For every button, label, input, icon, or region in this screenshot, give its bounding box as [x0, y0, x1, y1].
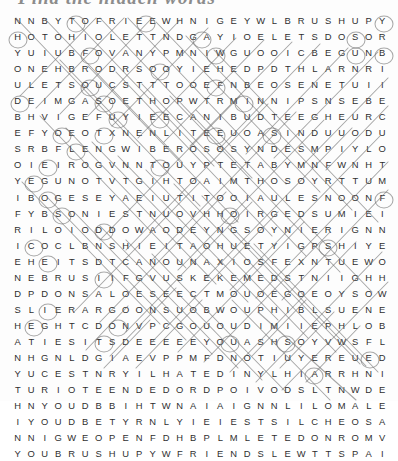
grid-letter[interactable]: T — [322, 382, 336, 398]
grid-letter[interactable]: E — [200, 414, 214, 430]
grid-letter[interactable]: O — [241, 29, 255, 45]
grid-letter[interactable]: N — [349, 157, 363, 173]
grid-letter[interactable]: M — [214, 286, 228, 302]
grid-letter[interactable]: O — [52, 286, 66, 302]
grid-letter[interactable]: V — [133, 318, 147, 334]
grid-letter[interactable]: I — [11, 238, 25, 254]
grid-letter[interactable]: L — [362, 141, 376, 157]
grid-letter[interactable]: L — [65, 141, 79, 157]
grid-letter[interactable]: L — [281, 398, 295, 414]
grid-letter[interactable]: Y — [52, 13, 66, 29]
grid-letter[interactable]: L — [268, 366, 282, 382]
grid-letter[interactable]: B — [106, 398, 120, 414]
grid-letter[interactable]: U — [38, 446, 52, 461]
grid-letter[interactable]: S — [295, 382, 309, 398]
grid-letter[interactable]: I — [227, 366, 241, 382]
grid-letter[interactable]: E — [160, 286, 174, 302]
grid-letter[interactable]: F — [92, 109, 106, 125]
grid-letter[interactable]: Y — [106, 190, 120, 206]
grid-letter[interactable]: R — [187, 382, 201, 398]
grid-letter[interactable]: N — [362, 45, 376, 61]
grid-letter[interactable]: I — [187, 190, 201, 206]
grid-letter[interactable]: O — [173, 206, 187, 222]
grid-letter[interactable]: A — [254, 125, 268, 141]
grid-letter[interactable]: I — [79, 29, 93, 45]
grid-letter[interactable]: S — [92, 446, 106, 461]
grid-letter[interactable]: A — [200, 173, 214, 189]
grid-letter[interactable]: W — [187, 93, 201, 109]
grid-letter[interactable]: E — [173, 286, 187, 302]
grid-letter[interactable]: I — [241, 382, 255, 398]
grid-letter[interactable]: N — [146, 125, 160, 141]
grid-letter[interactable]: N — [214, 222, 228, 238]
grid-letter[interactable]: R — [119, 61, 133, 77]
grid-letter[interactable]: A — [200, 29, 214, 45]
grid-letter[interactable]: R — [11, 222, 25, 238]
grid-letter[interactable]: I — [241, 190, 255, 206]
grid-letter[interactable]: O — [308, 430, 322, 446]
grid-letter[interactable]: E — [308, 318, 322, 334]
grid-letter[interactable]: H — [214, 206, 228, 222]
grid-letter[interactable]: G — [106, 141, 120, 157]
grid-letter[interactable]: Y — [146, 446, 160, 461]
grid-letter[interactable]: S — [322, 13, 336, 29]
grid-letter[interactable]: N — [254, 398, 268, 414]
grid-letter[interactable]: T — [254, 350, 268, 366]
grid-letter[interactable]: V — [106, 173, 120, 189]
grid-letter[interactable]: B — [38, 206, 52, 222]
grid-letter[interactable]: Y — [11, 173, 25, 189]
grid-letter[interactable]: K — [214, 270, 228, 286]
grid-letter[interactable]: L — [349, 318, 363, 334]
grid-letter[interactable]: M — [268, 318, 282, 334]
grid-letter[interactable]: H — [214, 238, 228, 254]
grid-letter[interactable]: O — [295, 286, 309, 302]
grid-letter[interactable]: M — [227, 173, 241, 189]
grid-letter[interactable]: U — [92, 77, 106, 93]
grid-letter[interactable]: I — [335, 222, 349, 238]
grid-letter[interactable]: G — [106, 302, 120, 318]
grid-letter[interactable]: G — [241, 398, 255, 414]
grid-letter[interactable]: L — [308, 302, 322, 318]
grid-letter[interactable]: U — [349, 13, 363, 29]
grid-letter[interactable]: H — [214, 61, 228, 77]
grid-letter[interactable]: I — [295, 366, 309, 382]
grid-letter[interactable]: D — [173, 222, 187, 238]
grid-letter[interactable]: R — [214, 93, 228, 109]
grid-letter[interactable]: N — [11, 350, 25, 366]
grid-letter[interactable]: N — [146, 254, 160, 270]
grid-letter[interactable]: N — [11, 13, 25, 29]
grid-letter[interactable]: D — [92, 254, 106, 270]
grid-letter[interactable]: E — [227, 13, 241, 29]
grid-letter[interactable]: Y — [38, 398, 52, 414]
grid-letter[interactable]: E — [214, 125, 228, 141]
grid-letter[interactable]: O — [79, 125, 93, 141]
grid-letter[interactable]: Y — [187, 157, 201, 173]
grid-letter[interactable]: A — [254, 190, 268, 206]
grid-letter[interactable]: U — [52, 45, 66, 61]
grid-letter[interactable]: O — [146, 61, 160, 77]
grid-letter[interactable]: T — [173, 190, 187, 206]
grid-letter[interactable]: L — [281, 190, 295, 206]
grid-letter[interactable]: B — [376, 318, 390, 334]
grid-letter[interactable]: B — [241, 77, 255, 93]
grid-letter[interactable]: Y — [268, 238, 282, 254]
grid-letter[interactable]: I — [227, 29, 241, 45]
grid-letter[interactable]: O — [268, 45, 282, 61]
grid-letter[interactable]: O — [160, 222, 174, 238]
grid-letter[interactable]: L — [38, 222, 52, 238]
grid-letter[interactable]: O — [187, 318, 201, 334]
grid-letter[interactable]: N — [268, 398, 282, 414]
grid-letter[interactable]: O — [11, 157, 25, 173]
grid-letter[interactable]: I — [200, 45, 214, 61]
grid-letter[interactable]: L — [241, 430, 255, 446]
grid-letter[interactable]: B — [268, 157, 282, 173]
grid-letter[interactable]: E — [335, 414, 349, 430]
grid-letter[interactable]: T — [25, 334, 39, 350]
grid-letter[interactable]: O — [187, 173, 201, 189]
grid-letter[interactable]: E — [227, 414, 241, 430]
grid-letter[interactable]: U — [65, 398, 79, 414]
grid-letter[interactable]: E — [227, 270, 241, 286]
grid-letter[interactable]: L — [65, 238, 79, 254]
grid-letter[interactable]: I — [376, 446, 390, 461]
grid-letter[interactable]: N — [227, 350, 241, 366]
